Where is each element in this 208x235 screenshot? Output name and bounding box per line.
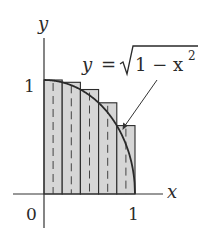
annotation-arrow-line: [124, 80, 157, 127]
y-tick-label-1: 1: [24, 76, 35, 96]
function-lhs: y: [81, 54, 93, 75]
riemann-sum-figure: y x 1 0 1 y = 1 − x 2: [0, 0, 208, 235]
x-tick-label-1: 1: [128, 204, 139, 224]
y-axis-label: y: [37, 13, 49, 34]
function-exponent: 2: [188, 49, 196, 63]
function-equals: =: [101, 54, 116, 75]
x-axis-label: x: [167, 181, 177, 202]
function-label: y = 1 − x 2: [81, 46, 198, 75]
function-radicand: 1 − x: [135, 54, 183, 75]
origin-label: 0: [26, 204, 37, 224]
